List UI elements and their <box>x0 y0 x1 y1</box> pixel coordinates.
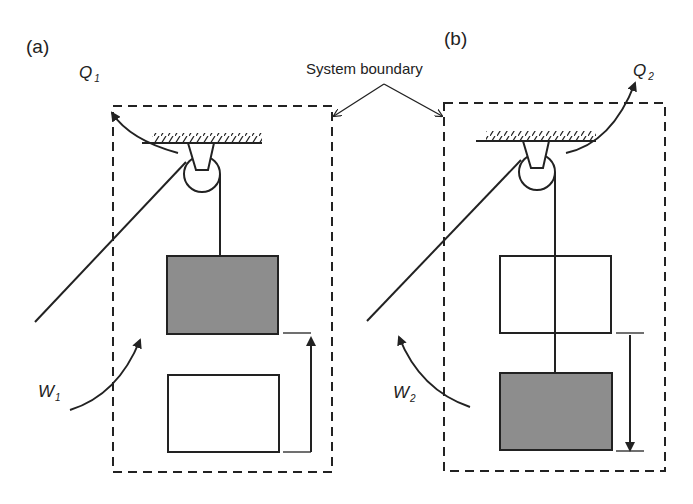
ceiling-b <box>476 131 596 141</box>
work-in-arrow-a <box>70 340 140 410</box>
work-label-a: W1 <box>38 382 61 403</box>
displacement-arrow-down-b <box>616 333 644 451</box>
block-initial-position-a <box>168 375 279 452</box>
heat-out-arrow-b <box>566 83 635 153</box>
panel-b-label: (b) <box>444 28 467 49</box>
panel-a: (a) Q1 W1 <box>26 36 332 472</box>
heat-label-a: Q1 <box>79 63 100 84</box>
system-boundary-label: System boundary <box>306 60 423 77</box>
displacement-arrow-up-a <box>283 333 311 452</box>
system-boundary-pointer-arrows <box>334 84 442 116</box>
panel-a-label: (a) <box>26 36 49 57</box>
pulley-b <box>519 141 555 190</box>
block-final-position-b <box>500 373 612 450</box>
heat-label-b: Q2 <box>633 61 654 82</box>
work-label-b: W2 <box>393 383 416 404</box>
pulley-a <box>184 143 220 192</box>
block-final-position-a <box>167 256 278 334</box>
panel-b: (b) Q2 W2 <box>367 28 665 471</box>
ceiling-a <box>142 133 262 143</box>
pulley-system-diagram: System boundary (a) <box>0 0 693 504</box>
block-initial-position-b <box>500 256 611 333</box>
rope-pull-a <box>35 162 186 322</box>
